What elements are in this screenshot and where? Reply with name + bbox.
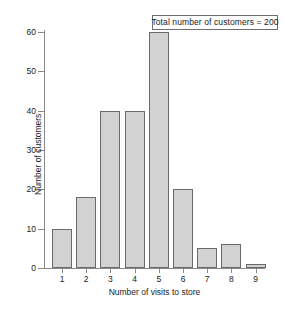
x-axis-tick [135, 268, 136, 273]
x-axis-tick-label: 3 [100, 275, 120, 284]
bar [221, 244, 241, 268]
x-axis-tick-label: 5 [149, 275, 169, 284]
y-axis-tick [38, 229, 44, 230]
y-axis-tick [38, 32, 44, 33]
x-axis-tick-label: 2 [76, 275, 96, 284]
x-axis-tick [207, 268, 208, 273]
y-axis-tick-label: 10 [6, 225, 36, 234]
y-axis-tick-label: 50 [6, 67, 36, 76]
y-axis-tick-label: 40 [6, 107, 36, 116]
bar [197, 248, 217, 268]
x-axis-tick-label: 8 [221, 275, 241, 284]
x-axis-tick [62, 268, 63, 273]
x-axis-tick [159, 268, 160, 273]
y-axis-tick-label: 60 [6, 28, 36, 37]
annotation-text: Total number of customers = 200 [151, 18, 278, 27]
y-axis-tick-label: 0 [6, 264, 36, 273]
x-axis-tick-label: 4 [125, 275, 145, 284]
bar [173, 189, 193, 268]
x-axis-tick [183, 268, 184, 273]
x-axis-tick [231, 268, 232, 273]
x-axis-tick-label: 1 [52, 275, 72, 284]
bar [76, 197, 96, 268]
bar-chart-figure: Total number of customers = 200 01020304… [0, 0, 285, 310]
y-axis-tick-label: 20 [6, 185, 36, 194]
bar [100, 111, 120, 268]
x-axis-title: Number of visits to store [44, 288, 265, 297]
bar [246, 264, 266, 268]
x-axis-tick [256, 268, 257, 273]
bar [52, 229, 72, 268]
bar [125, 111, 145, 268]
bar [149, 32, 169, 268]
x-axis-tick-label: 9 [246, 275, 266, 284]
y-axis-title: Number of customers [34, 94, 43, 214]
x-axis-tick [110, 268, 111, 273]
y-axis-tick [38, 71, 44, 72]
y-axis-tick [38, 268, 44, 269]
y-axis-line [44, 30, 45, 268]
x-axis-tick-label: 7 [197, 275, 217, 284]
x-axis-tick-label: 6 [173, 275, 193, 284]
total-customers-annotation: Total number of customers = 200 [152, 15, 278, 30]
x-axis-tick [86, 268, 87, 273]
y-axis-tick-label: 30 [6, 146, 36, 155]
y-axis-title-holder: Number of customers [22, 10, 23, 11]
